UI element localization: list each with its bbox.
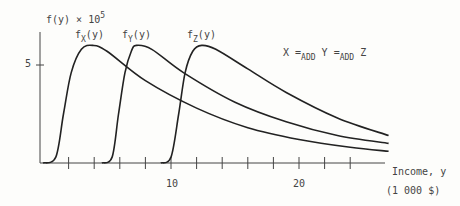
x-tick-label-10: 10 (166, 178, 178, 189)
equality-annotation: X =ADD Y =ADD Z (283, 47, 366, 58)
series-label-fx: fX(y) (75, 29, 104, 40)
series-label-fy: fY(y) (122, 29, 151, 40)
y-tick-label-5: 5 (25, 58, 31, 69)
curve-fz (161, 45, 389, 163)
x-tick-label-20: 20 (293, 178, 305, 189)
series-label-fz: fZ(y) (187, 29, 216, 40)
curve-fy (102, 45, 389, 163)
y-axis-label: f(y) × 105 (46, 14, 105, 25)
chart-canvas (0, 0, 460, 206)
curve-fx (43, 45, 389, 163)
x-axis-label: Income, y (392, 166, 446, 177)
x-axis-unit: (1 000 $) (386, 185, 440, 196)
